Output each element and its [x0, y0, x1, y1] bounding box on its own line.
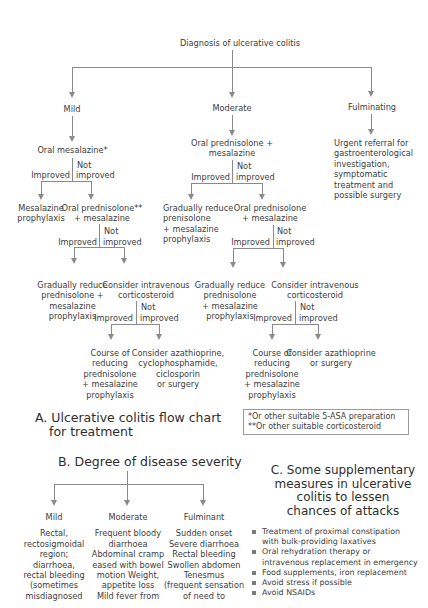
- text-line: Treatment of proximal constipation: [262, 527, 428, 537]
- text-line: (sometimes: [14, 580, 94, 590]
- connector: [191, 183, 262, 184]
- text-line: mesalazine: [182, 148, 282, 158]
- connector: [111, 324, 159, 325]
- bullet-square-icon: [252, 550, 256, 554]
- text-line: cyclophosphamide,: [128, 358, 228, 368]
- connector: [72, 67, 73, 94]
- connector: [54, 484, 204, 485]
- node-consider-iv-moderate: Consider intravenous corticosteroid: [265, 280, 365, 301]
- connector: [41, 181, 91, 182]
- text-line: Food supplements, iron replacement: [262, 568, 428, 578]
- text-line: Urgent referral for: [334, 138, 413, 148]
- connector: [72, 116, 73, 138]
- label-improved: Improved: [222, 237, 270, 247]
- connector: [283, 248, 284, 263]
- connector: [72, 158, 73, 181]
- label-not: Not: [277, 226, 291, 236]
- text-line: Avoid stress if possible: [262, 578, 428, 588]
- text-line: rectal bleeding: [14, 570, 94, 580]
- node-fulminating: Fulminating: [336, 102, 408, 112]
- label-not: Not: [141, 302, 155, 312]
- severity-label-fulminant: Fulminant: [158, 512, 250, 522]
- label-improved: Improved: [85, 313, 133, 323]
- title-line: measures in ulcerative: [258, 478, 428, 492]
- connector: [232, 50, 233, 94]
- text-line: with bulk-providing laxatives: [262, 537, 428, 547]
- text-line: prednisolone: [237, 369, 307, 379]
- label-not-improved: improved: [103, 237, 142, 247]
- text-line: Consider azathioprine,: [128, 348, 228, 358]
- supplementary-list: Treatment of proximal constipation with …: [250, 527, 428, 598]
- text-line: region;: [14, 549, 94, 559]
- connector: [99, 224, 100, 247]
- node-oral-prednisolone-mild: Oral prednisolone** + mesalazine: [52, 203, 152, 224]
- connector: [91, 181, 92, 195]
- arrow-icon: [315, 334, 321, 340]
- arrow-icon: [156, 334, 162, 340]
- text-line: prenisolone: [163, 213, 233, 223]
- text-line: corticosteroid: [265, 290, 365, 300]
- text-line: misdiagnosed: [14, 591, 94, 601]
- connector: [72, 67, 372, 68]
- label-not: Not: [300, 302, 314, 312]
- text-line: + mesalazine: [180, 301, 280, 311]
- text-line: Severe diarrhoea: [158, 539, 250, 549]
- connector: [295, 301, 296, 324]
- text-line: Oral prednisolone**: [52, 203, 152, 213]
- label-not-improved: improved: [276, 237, 315, 247]
- arrow-icon: [368, 91, 374, 97]
- arrow-icon: [259, 194, 265, 200]
- title-line: C. Some supplementary: [258, 464, 428, 478]
- node-oral-prednisolone-moderate-2: Oral prednisolone + mesalazine: [226, 203, 314, 224]
- bullet-square-icon: [252, 530, 256, 534]
- text-line: diarrhoea,: [14, 560, 94, 570]
- label-improved: Improved: [180, 172, 230, 182]
- text-line: mesalazine: [20, 301, 125, 311]
- node-diagnosis: Diagnosis of ulcerative colitis: [180, 38, 300, 48]
- bullet-square-icon: [252, 571, 256, 575]
- caption-flowchart: A. Ulcerative colitis flow chart for tre…: [35, 411, 221, 439]
- node-mild: Mild: [52, 104, 92, 114]
- connector: [233, 248, 234, 263]
- text-line: or surgery: [286, 358, 376, 368]
- text-line: prophylaxis: [75, 390, 145, 400]
- label-improved: Improved: [50, 237, 97, 247]
- text-line: ciclosporin: [128, 369, 228, 379]
- text-line: possible surgery: [334, 190, 413, 200]
- text-line: + mesalazine: [226, 213, 314, 223]
- text-line: symptomatic: [334, 169, 413, 179]
- text-line: + mesalazine: [237, 379, 307, 389]
- severity-title: B. Degree of disease severity: [58, 455, 242, 469]
- text-line: prophylaxis: [237, 390, 307, 400]
- connector: [203, 484, 204, 501]
- footnote-box: *Or other suitable 5-ASA preparation **O…: [243, 409, 409, 435]
- label-not: Not: [104, 226, 118, 236]
- arrow-icon: [38, 194, 44, 200]
- node-moderate: Moderate: [202, 103, 262, 113]
- text-line: + mesalazine: [52, 213, 152, 223]
- arrow-icon: [368, 129, 374, 135]
- arrow-icon: [229, 130, 235, 136]
- label-improved: Improved: [20, 170, 70, 180]
- arrow-icon: [69, 136, 75, 142]
- title-line: colitis to lessen: [258, 491, 428, 505]
- node-consider-azathioprine-moderate: Consider azathioprine or surgery: [286, 348, 376, 369]
- supplementary-title: C. Some supplementary measures in ulcera…: [258, 464, 428, 518]
- list-item: Avoid stress if possible: [250, 578, 428, 588]
- text-line: investigation,: [334, 159, 413, 169]
- caption-line: A. Ulcerative colitis flow chart: [35, 411, 221, 425]
- arrow-icon: [108, 334, 114, 340]
- connector: [74, 247, 124, 248]
- label-not: Not: [77, 160, 91, 170]
- severity-label-mild: Mild: [14, 512, 94, 522]
- footnote-5asa: *Or other suitable 5-ASA preparation: [248, 412, 404, 422]
- arrow-icon: [269, 334, 275, 340]
- list-item: Avoid NSAIDs: [250, 588, 428, 598]
- arrow-icon: [230, 262, 236, 268]
- connector: [272, 324, 318, 325]
- label-not: Not: [237, 161, 251, 171]
- arrow-icon: [88, 194, 94, 200]
- bullet-square-icon: [252, 581, 256, 585]
- connector: [232, 160, 233, 183]
- connector: [136, 301, 137, 324]
